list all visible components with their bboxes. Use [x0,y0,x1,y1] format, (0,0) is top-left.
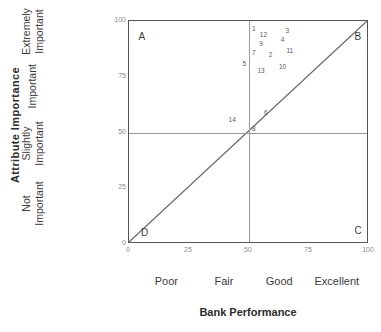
data-point-9: 9 [259,40,263,47]
plot-area: ABCD1123947211513101468 [128,20,368,243]
gridline-vertical-50 [249,21,250,242]
x-category-fair: Fair [215,275,234,287]
quadrant-label-c: C [355,225,362,236]
y-category-line1: Not [19,195,31,211]
data-point-6: 6 [264,109,268,116]
quadrant-label-a: A [139,31,146,42]
x-axis-category-labels: PoorFairGoodExcellent [128,275,368,291]
data-point-8: 8 [252,125,256,132]
data-point-4: 4 [281,35,285,42]
y-category-line1: Extremely [20,8,32,55]
x-category-good: Good [266,275,293,287]
data-point-7: 7 [252,49,256,56]
data-point-2: 2 [269,51,273,58]
y-category-extremely-important: Extremely Important [0,8,92,54]
y-axis-ticks: 0255075100 [100,0,126,332]
x-tick-label-50: 50 [244,246,252,253]
y-tick-label-75: 75 [104,72,126,79]
data-point-14: 14 [229,116,236,123]
plot-inner: ABCD1123947211513101468 [129,21,367,242]
x-category-poor: Poor [155,275,178,287]
y-category-line2: Important [32,121,45,165]
data-point-12: 12 [260,31,267,38]
y-category-not-important: Not Important [0,180,92,226]
data-point-3: 3 [286,26,290,33]
x-tick-label-75: 75 [304,246,312,253]
y-tick-label-50: 50 [104,128,126,135]
x-axis-ticks: 0255075100 [128,246,368,258]
y-category-important: Important [0,63,92,109]
x-category-excellent: Excellent [314,275,359,287]
data-point-13: 13 [257,67,264,74]
x-tick-label-0: 0 [126,246,130,253]
data-point-5: 5 [242,60,246,67]
y-tick-label-25: 25 [104,183,126,190]
data-point-11: 11 [286,46,293,53]
y-category-line2: Important [32,8,45,55]
y-category-line1: Important [26,64,38,108]
x-tick-label-100: 100 [362,246,374,253]
x-tick-label-25: 25 [184,246,192,253]
diagonal-reference-line [129,21,367,242]
x-axis-title: Bank Performance [128,306,368,318]
data-point-10: 10 [279,62,286,69]
y-category-line1: Slightly [19,126,31,160]
y-tick-label-0: 0 [104,239,126,246]
quadrant-label-d: D [141,227,148,238]
gridline-horizontal-50 [129,133,367,134]
data-point-1: 1 [252,24,256,31]
y-category-slightly-important: Slightly Important [0,120,92,166]
y-tick-label-100: 100 [104,16,126,23]
quadrant-label-b: B [355,31,362,42]
y-category-line2: Important [32,181,45,225]
